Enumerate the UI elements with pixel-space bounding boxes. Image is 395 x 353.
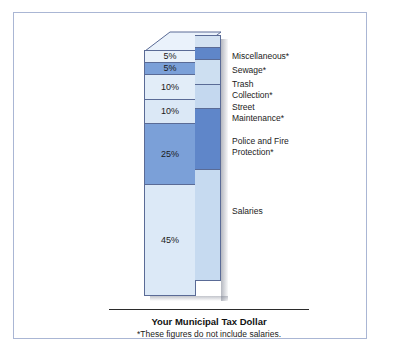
column-segment-side <box>195 85 220 109</box>
column-side-face <box>195 35 221 281</box>
column-front-face: 5%5%10%10%25%45% <box>144 50 196 296</box>
column-segment: 5% <box>145 63 195 75</box>
caption-block: Your Municipal Tax Dollar *These figures… <box>74 315 344 340</box>
segment-percent-label: 45% <box>161 236 179 245</box>
segment-percent-label: 25% <box>161 150 179 159</box>
segment-percent-label: 5% <box>163 64 176 73</box>
category-label: Street Maintenance* <box>232 102 284 123</box>
column-segment-side <box>195 48 220 60</box>
chart-footnote: *These figures do not include salaries. <box>74 328 344 340</box>
segment-percent-label: 10% <box>161 107 179 116</box>
column-segment-side <box>195 36 220 48</box>
column-segment: 5% <box>145 51 195 63</box>
chart-title: Your Municipal Tax Dollar <box>74 315 344 328</box>
segment-percent-label: 10% <box>161 83 179 92</box>
chart-stage: 5%5%10%10%25%45% Miscellaneous*Sewage*Tr… <box>14 13 366 338</box>
column-segment: 10% <box>145 100 195 124</box>
stacked-column-3d: 5%5%10%10%25%45% <box>144 31 222 296</box>
column-segment-side <box>195 170 220 280</box>
column-segment: 10% <box>145 75 195 99</box>
chart-canvas: 5%5%10%10%25%45% Miscellaneous*Sewage*Tr… <box>0 0 395 353</box>
category-label: Trash Collection* <box>232 79 273 100</box>
chart-frame: 5%5%10%10%25%45% Miscellaneous*Sewage*Tr… <box>13 12 367 339</box>
category-label: Sewage* <box>232 65 266 76</box>
category-label: Salaries <box>232 206 263 217</box>
category-label: Miscellaneous* <box>232 51 289 62</box>
column-segment: 25% <box>145 124 195 185</box>
column-bottom-shadow <box>150 296 228 301</box>
segment-percent-label: 5% <box>163 52 176 61</box>
column-segment-side <box>195 109 220 170</box>
category-label: Police and Fire Protection* <box>232 136 289 157</box>
column-drop-shadow <box>221 39 228 301</box>
column-segment: 45% <box>145 185 195 295</box>
category-label-list: Miscellaneous*Sewage*Trash Collection*St… <box>232 31 362 291</box>
column-segment-side <box>195 60 220 84</box>
caption-divider <box>109 309 309 310</box>
